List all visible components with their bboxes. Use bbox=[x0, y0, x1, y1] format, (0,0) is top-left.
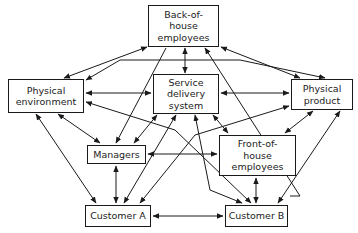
edge-sds-mgr bbox=[134, 115, 157, 143]
node-physical-environment: Physical environment bbox=[8, 79, 84, 113]
node-front-of-house-employees: Front-of- house employees bbox=[219, 135, 296, 176]
edge-boh-pprod bbox=[221, 47, 300, 78]
service-system-diagram: Back-of- house employees Physical enviro… bbox=[0, 0, 358, 233]
edge-penv-mgr bbox=[58, 114, 100, 143]
node-customer-b: Customer B bbox=[225, 205, 288, 227]
node-service-delivery-system: Service delivery system bbox=[153, 74, 219, 114]
edge-sds-foh bbox=[213, 115, 228, 133]
edge-boh-penv bbox=[64, 47, 147, 78]
node-customer-a: Customer A bbox=[85, 205, 151, 227]
edge-pprod-foh bbox=[285, 111, 313, 133]
node-back-of-house-employees: Back-of- house employees bbox=[148, 5, 219, 47]
node-managers: Managers bbox=[87, 145, 146, 164]
node-physical-product: Physical product bbox=[291, 79, 353, 110]
